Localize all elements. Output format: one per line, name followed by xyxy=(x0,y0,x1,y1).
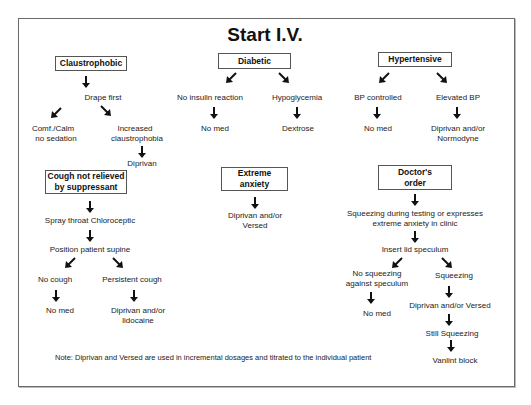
arrow-down-icon xyxy=(445,339,457,353)
node-lidocaine: lidocaine xyxy=(122,316,154,326)
arrow-down-icon xyxy=(84,229,96,243)
node-no-cough: No cough xyxy=(38,275,72,285)
arrow-down-icon xyxy=(136,145,148,159)
node-no-insulin-reaction: No insulin reaction xyxy=(177,93,243,103)
node-still-squeezing: Still Squeezing xyxy=(426,329,479,339)
box-line: anxiety xyxy=(240,179,269,190)
arrow-down-right-icon xyxy=(441,256,453,270)
arrow-down-icon xyxy=(208,106,220,120)
node-extreme-anxiety-clinic: extreme anxiety in clinic xyxy=(373,219,458,229)
arrow-down-icon xyxy=(409,230,421,244)
node-diprivan: Diprivan xyxy=(127,159,156,169)
arrow-down-left-icon xyxy=(225,71,237,85)
box-line: Extreme xyxy=(238,168,272,179)
node-insert-lid-speculum: Insert lid speculum xyxy=(382,245,449,255)
arrow-down-icon xyxy=(443,313,455,327)
arrow-down-left-icon xyxy=(391,256,403,270)
node-vanlint-block: Vanlint block xyxy=(433,356,478,366)
node-no-med: No med xyxy=(363,309,391,319)
arrow-down-icon xyxy=(291,106,303,120)
arrow-down-left-icon xyxy=(378,71,390,85)
box-doctors-order: Doctor's order xyxy=(378,165,452,190)
node-no-med: No med xyxy=(201,124,229,134)
node-elevated-bp: Elevated BP xyxy=(436,93,480,103)
arrow-down-right-icon xyxy=(112,256,124,270)
arrow-down-left-icon xyxy=(50,106,62,120)
arrow-down-icon xyxy=(371,106,383,120)
node-against-speculum: against speculum xyxy=(346,279,408,289)
node-no-med: No med xyxy=(46,306,74,316)
arrow-down-icon xyxy=(80,75,92,89)
box-cough-not-relieved: Cough not relieved by suppressant xyxy=(45,170,127,194)
node-claustrophobia: claustrophobia xyxy=(111,134,163,144)
arrow-down-icon xyxy=(443,285,455,299)
node-position-supine: Position patient supine xyxy=(50,245,131,255)
box-line: by suppressant xyxy=(55,182,118,193)
footnote: Note: Diprivan and Versed are used in in… xyxy=(55,353,371,362)
node-no-squeezing: No squeezing xyxy=(353,269,402,279)
node-hypoglycemia: Hypoglycemia xyxy=(272,93,322,103)
box-line: order xyxy=(404,178,426,189)
node-bp-controlled: BP controlled xyxy=(354,93,401,103)
box-hypertensive: Hypertensive xyxy=(378,52,452,67)
arrow-down-icon xyxy=(365,291,377,305)
arrow-down-icon xyxy=(50,289,62,303)
node-dextrose: Dextrose xyxy=(282,124,314,134)
box-extreme-anxiety: Extreme anxiety xyxy=(221,167,288,191)
node-comf-calm: Comf./Calm xyxy=(32,124,74,134)
box-claustrophobic: Claustrophobic xyxy=(55,56,127,71)
arrow-down-right-icon xyxy=(100,104,112,118)
arrow-down-icon xyxy=(451,106,463,120)
node-no-med: No med xyxy=(364,124,392,134)
node-versed: Versed xyxy=(243,221,268,231)
arrow-down-icon xyxy=(249,196,261,210)
box-diabetic: Diabetic xyxy=(218,53,291,69)
box-line: Cough not relieved xyxy=(48,171,125,182)
node-diprivan-and-or: Diprivan and/or xyxy=(431,124,485,134)
node-spray-throat: Spray throat Chloroceptic xyxy=(45,216,135,226)
node-diprivan-and-or: Diprivan and/or xyxy=(228,211,282,221)
arrow-down-right-icon xyxy=(436,71,448,85)
node-squeezing: Squeezing xyxy=(435,271,473,281)
node-diprivan-and-or: Diprivan and/or xyxy=(111,306,165,316)
arrow-down-left-icon xyxy=(64,256,76,270)
arrow-down-icon xyxy=(84,200,96,214)
node-drape-first: Drape first xyxy=(85,93,122,103)
arrow-down-right-icon xyxy=(278,71,290,85)
node-diprivan-and-or-versed: Diprivan and/or Versed xyxy=(409,301,490,311)
arrow-down-icon xyxy=(409,193,421,207)
node-no-sedation: no sedation xyxy=(35,134,76,144)
node-persistent-cough: Persistent cough xyxy=(102,275,162,285)
arrow-down-icon xyxy=(128,289,140,303)
node-squeezing-during-testing: Squeezing during testing or expresses xyxy=(347,209,483,219)
node-increased: Increased xyxy=(117,124,152,134)
node-normodyne: Normodyne xyxy=(437,134,478,144)
box-line: Doctor's xyxy=(398,167,432,178)
chart-title: Start I.V. xyxy=(227,24,302,46)
